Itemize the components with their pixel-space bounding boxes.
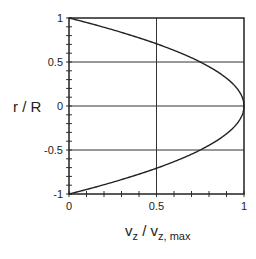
- y-tick-label: 1: [57, 12, 63, 24]
- x-tick-labels: 00.51: [66, 200, 247, 212]
- x-tick-label: 0.5: [149, 200, 164, 212]
- x-axis-label: vz / vz, max: [125, 222, 191, 242]
- minor-ticks: [66, 18, 244, 197]
- y-axis-label: r / R: [13, 98, 41, 115]
- x-tick-label: 1: [241, 200, 247, 212]
- y-tick-label: -0.5: [44, 144, 63, 156]
- velocity-profile-chart: 10.50-0.5-1 00.51 r / R vz / vz, max: [0, 0, 256, 259]
- y-tick-labels: 10.50-0.5-1: [44, 12, 63, 200]
- x-tick-label: 0: [66, 200, 72, 212]
- y-tick-label: 0: [57, 100, 63, 112]
- y-tick-label: 0.5: [48, 56, 63, 68]
- y-tick-label: -1: [53, 188, 63, 200]
